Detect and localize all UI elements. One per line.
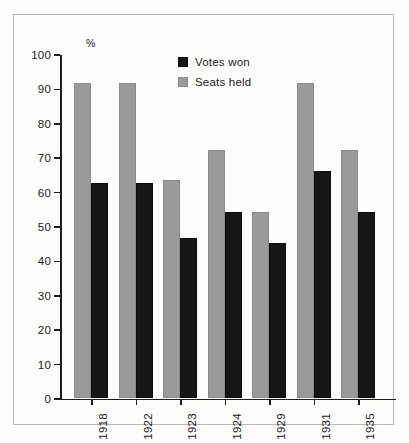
x-axis-tick (314, 399, 316, 405)
y-axis-tick-label: 100 (31, 49, 51, 61)
y-axis-line (60, 55, 62, 399)
x-axis-tick (269, 399, 271, 405)
y-axis-tick (54, 364, 60, 366)
y-axis-tick (54, 54, 60, 56)
bar-seats-held (252, 212, 269, 398)
x-axis-tick (180, 399, 182, 405)
legend-label-seats-held: Seats held (195, 76, 251, 88)
x-axis-tick-label: 1922 (142, 413, 154, 440)
x-axis-tick-label: 1924 (231, 413, 243, 440)
x-axis-tick (225, 399, 227, 405)
y-axis-tick (54, 295, 60, 297)
bar-seats-held (74, 83, 91, 398)
bar-seats-held (341, 150, 358, 398)
bar-votes-won (180, 238, 197, 398)
y-axis-tick-label: 10 (38, 359, 51, 371)
y-axis-tick-label: 0 (44, 393, 51, 405)
y-axis-tick (54, 89, 60, 91)
y-axis-tick (54, 157, 60, 159)
y-axis-tick (54, 398, 60, 400)
y-axis-tick-label: 70 (38, 152, 51, 164)
y-axis-tick (54, 192, 60, 194)
figure-frame-border: % 0102030405060708090100 191819221923192… (13, 14, 394, 425)
y-axis-tick-label: 40 (38, 255, 51, 267)
plot-area: % 0102030405060708090100 191819221923192… (60, 49, 400, 399)
x-axis-tick (358, 399, 360, 405)
y-axis-tick-label: 80 (38, 118, 51, 130)
y-axis-tick (54, 123, 60, 125)
legend-label-votes-won: Votes won (195, 56, 250, 68)
y-axis-unit-label: % (86, 37, 95, 49)
y-axis-tick-label: 60 (38, 187, 51, 199)
x-axis-tick-label: 1918 (97, 413, 109, 440)
legend-item-votes-won: Votes won (178, 55, 251, 68)
legend-item-seats-held: Seats held (178, 75, 251, 88)
y-axis-tick (54, 261, 60, 263)
x-axis-tick (136, 399, 138, 405)
bar-votes-won (136, 183, 153, 398)
chart-legend: Votes won Seats held (178, 55, 251, 95)
x-axis-tick-label: 1929 (275, 413, 287, 440)
x-axis-tick (91, 399, 93, 405)
bar-votes-won (91, 183, 108, 398)
y-axis-tick (54, 226, 60, 228)
y-axis-tick-label: 90 (38, 83, 51, 95)
y-axis-tick-label: 30 (38, 290, 51, 302)
x-axis-tick-label: 1935 (364, 413, 376, 440)
black-square-swatch-icon (178, 57, 188, 67)
y-axis-tick (54, 329, 60, 331)
bar-seats-held (163, 180, 180, 398)
bar-votes-won (314, 171, 331, 398)
x-axis-tick-label: 1923 (186, 413, 198, 440)
bar-seats-held (297, 83, 314, 398)
chart-figure: % 0102030405060708090100 191819221923192… (0, 0, 409, 443)
gray-square-swatch-icon (178, 77, 188, 87)
x-axis-line (60, 399, 396, 401)
x-axis-tick-label: 1931 (320, 413, 332, 440)
y-axis-tick-label: 20 (38, 324, 51, 336)
y-axis-tick-label: 50 (38, 221, 51, 233)
bar-votes-won (269, 243, 286, 398)
bar-votes-won (358, 212, 375, 398)
bar-seats-held (119, 83, 136, 398)
bar-seats-held (208, 150, 225, 398)
bar-votes-won (225, 212, 242, 398)
